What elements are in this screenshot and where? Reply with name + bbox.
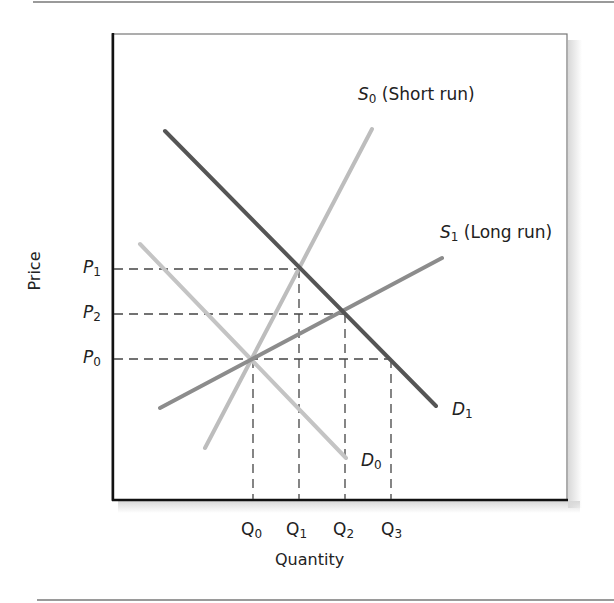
x-axis-title: Quantity: [275, 552, 344, 568]
d1-label: D1: [452, 401, 473, 420]
p2-tick-label: P2: [83, 304, 101, 323]
q3-tick-label: Q3: [381, 521, 402, 540]
y-axis-title: Price: [27, 248, 43, 294]
p1-tick-label: P1: [83, 259, 101, 278]
q0-tick-label: Q0: [241, 521, 262, 540]
bottom-rule: [37, 599, 614, 601]
s0-label: S0 (Short run): [358, 86, 475, 105]
q2-tick-label: Q2: [333, 521, 354, 540]
q1-tick-label: Q1: [286, 521, 307, 540]
d0-label: D0: [361, 452, 382, 471]
p0-tick-label: P0: [83, 349, 101, 368]
plot-frame: [112, 34, 567, 500]
s1-label: S1 (Long run): [440, 224, 552, 243]
